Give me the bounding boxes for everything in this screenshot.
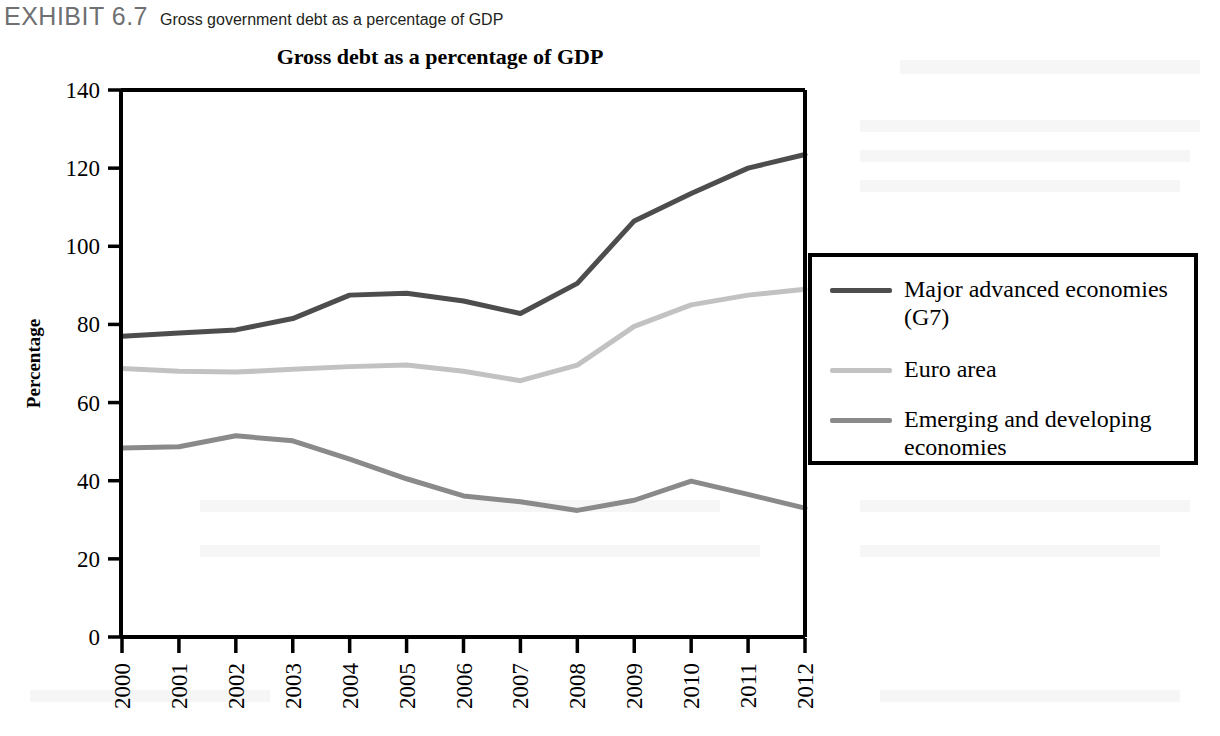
legend-label-major-advanced-economies: Major advanced economies(G7) <box>904 275 1168 332</box>
series-group <box>122 154 805 510</box>
y-tick-label: 80 <box>77 312 100 337</box>
axis-frame <box>121 90 805 637</box>
x-tick-label: 2008 <box>565 663 590 709</box>
x-tick-label: 2003 <box>281 663 306 709</box>
series-line-0 <box>122 154 805 336</box>
x-tick-label: 2005 <box>395 663 420 709</box>
legend-swatch-emerging-developing-economies <box>830 418 892 423</box>
legend-label-euro-area: Euro area <box>904 355 997 383</box>
y-axis-title: Percentage <box>23 319 44 408</box>
series-line-2 <box>122 436 805 511</box>
legend-item-emerging-developing-economies[interactable]: Emerging and developingeconomies <box>830 405 1182 462</box>
x-tick-label: 2010 <box>679 663 704 709</box>
y-tick-label: 20 <box>77 547 100 572</box>
exhibit-page: EXHIBIT 6.7 Gross government debt as a p… <box>0 0 1220 736</box>
x-tick-label: 2012 <box>793 663 818 709</box>
x-tick-label: 2004 <box>338 663 363 710</box>
x-tick-label: 2001 <box>167 663 192 709</box>
legend-item-euro-area[interactable]: Euro area <box>830 355 1182 383</box>
x-tick-label: 2011 <box>736 663 761 708</box>
y-tick-label: 140 <box>66 78 101 103</box>
x-tick-label: 2002 <box>224 663 249 709</box>
legend-item-major-advanced-economies[interactable]: Major advanced economies(G7) <box>830 275 1182 332</box>
x-axis-group: 2000200120022003200420052006200720082009… <box>110 638 818 709</box>
x-tick-label: 2009 <box>622 663 647 709</box>
legend-swatch-major-advanced-economies <box>830 288 892 293</box>
x-tick-label: 2000 <box>110 663 135 709</box>
y-tick-label: 120 <box>66 156 101 181</box>
y-tick-label: 0 <box>89 625 101 650</box>
legend-swatch-euro-area <box>830 368 892 373</box>
y-tick-label: 40 <box>77 469 100 494</box>
y-tick-label: 100 <box>66 234 101 259</box>
legend-label-emerging-developing-economies: Emerging and developingeconomies <box>904 405 1152 462</box>
x-tick-label: 2006 <box>452 663 477 709</box>
x-tick-label: 2007 <box>508 663 533 709</box>
y-tick-label: 60 <box>77 391 100 416</box>
y-axis-group: 020406080100120140Percentage <box>23 78 121 650</box>
chart-legend: Major advanced economies(G7) Euro area E… <box>808 253 1198 465</box>
